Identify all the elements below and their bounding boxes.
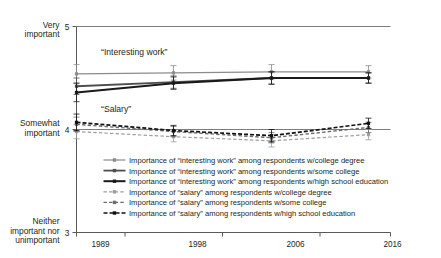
legend-label: Importance of “interesting work” among r… [129, 167, 359, 176]
data-point-marker [367, 133, 370, 136]
data-point-marker [75, 91, 78, 94]
x-tick-label-1989: 1989 [91, 240, 110, 249]
data-point-marker [172, 129, 175, 132]
y-tick-number: 3 [65, 228, 70, 238]
data-point-marker [172, 82, 175, 85]
annotation-salary: “Salary” [101, 104, 131, 114]
data-point-marker [172, 71, 175, 74]
x-tick-label-2006: 2006 [286, 240, 305, 249]
y-tick-number: 4 [65, 125, 70, 135]
x-tick-label-1998: 1998 [188, 240, 207, 249]
legend-label: Importance of “salary” among respondents… [129, 188, 332, 197]
data-point-marker [270, 134, 273, 137]
legend-item-interesting-work-college-degree[interactable]: Importance of “interesting work” among r… [104, 156, 365, 165]
line-chart: 543VeryimportantSomewhatimportantNeither… [0, 0, 441, 258]
legend-swatch-marker [113, 190, 116, 193]
y-label-neither: important nor [10, 226, 60, 236]
legend-label: Importance of “interesting work” among r… [129, 156, 365, 165]
x-tick-label-2016: 2016 [383, 240, 402, 249]
legend-item-salary-college-degree[interactable]: Importance of “salary” among respondents… [104, 188, 332, 197]
y-label-somewhat: Somewhat [20, 118, 60, 128]
y-label-neither: Neither [33, 216, 60, 226]
y-label-somewhat: important [25, 128, 61, 138]
legend-swatch-marker [113, 211, 116, 214]
legend-item-salary-high-school[interactable]: Importance of “salary” among respondents… [104, 209, 356, 218]
y-label-neither: unimportant [15, 235, 60, 245]
legend-swatch-marker [113, 201, 116, 204]
annotation-interesting-work: “Interesting work” [101, 47, 168, 57]
data-point-marker [367, 76, 370, 79]
data-point-marker [367, 122, 370, 125]
y-label-very: Very [43, 20, 61, 30]
y-tick-number: 5 [65, 22, 70, 32]
legend-label: Importance of “salary” among respondents… [129, 198, 327, 207]
data-point-marker [75, 121, 78, 124]
legend-item-interesting-work-high-school[interactable]: Importance of “interesting work” among r… [104, 177, 389, 186]
legend-item-interesting-work-some-college[interactable]: Importance of “interesting work” among r… [104, 167, 360, 176]
chart-figure: 543VeryimportantSomewhatimportantNeither… [0, 0, 441, 258]
legend-swatch-marker [113, 180, 116, 183]
y-label-very: important [25, 29, 61, 39]
legend-label: Importance of “interesting work” among r… [129, 177, 388, 186]
legend-item-salary-some-college[interactable]: Importance of “salary” among respondents… [104, 198, 327, 207]
legend-swatch-marker [113, 158, 116, 161]
legend-swatch-marker [113, 169, 116, 172]
data-point-marker [270, 76, 273, 79]
legend-label: Importance of “salary” among respondents… [129, 209, 355, 218]
data-point-marker [75, 72, 78, 75]
